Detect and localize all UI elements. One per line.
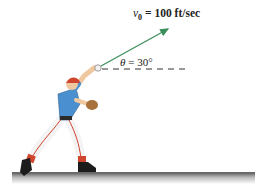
glove [86,100,98,110]
ground [12,172,255,184]
velocity-label: v0 = 100 ft/sec [133,7,200,22]
angle-label: θ = 30° [120,56,153,68]
projectile-diagram [0,0,265,187]
baseball [95,65,101,71]
front-shoe [78,162,96,172]
pitcher-figure [20,65,101,176]
